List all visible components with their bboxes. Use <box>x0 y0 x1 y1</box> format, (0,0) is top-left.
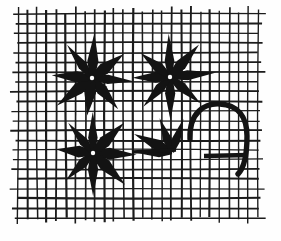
grid-line-vertical <box>229 7 230 218</box>
grid-line-horizontal <box>16 62 262 63</box>
star-center-gap <box>168 75 172 79</box>
grid-line-horizontal <box>11 111 260 112</box>
grid-line-horizontal <box>10 189 265 190</box>
grid-line-horizontal <box>16 101 262 102</box>
grid-line-horizontal <box>10 130 262 131</box>
grid-line-horizontal <box>12 72 265 73</box>
grid-line-vertical <box>75 7 76 224</box>
grid-line-vertical <box>181 10 182 218</box>
star-center-gap <box>91 151 95 155</box>
grid-line-horizontal <box>17 198 260 199</box>
figure-root <box>0 0 281 241</box>
grid-line-horizontal <box>17 42 262 43</box>
grid-line-horizontal <box>10 91 259 92</box>
grid-line-horizontal <box>13 52 257 53</box>
grid-line-horizontal <box>11 169 259 170</box>
star-center-gap <box>90 76 94 80</box>
grid-line-vertical <box>248 6 249 224</box>
figure-canvas <box>0 0 281 241</box>
grid-line-vertical <box>209 9 210 217</box>
grid-line-horizontal <box>17 178 258 179</box>
